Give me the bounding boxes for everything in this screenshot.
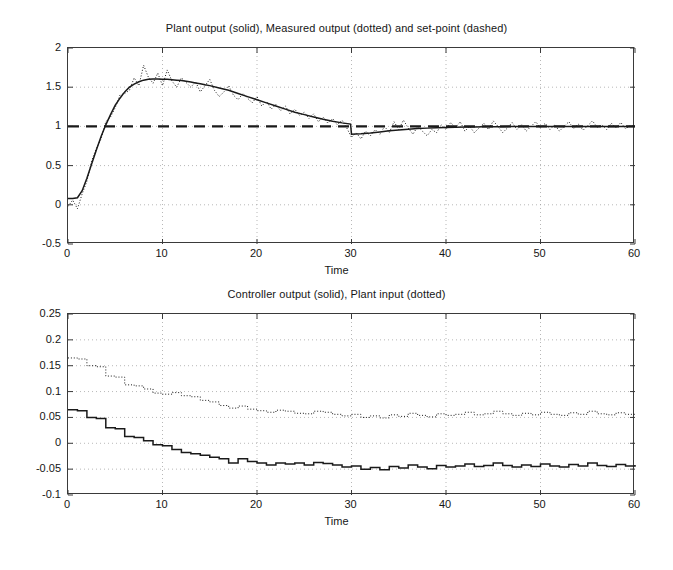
controller-output-title: Controller output (solid), Plant input (… <box>0 288 673 300</box>
xtick-label: 40 <box>439 247 451 259</box>
ytick-label: 1 <box>16 119 61 131</box>
ytick-label: 0.1 <box>6 385 61 397</box>
xtick-label: 30 <box>344 498 356 510</box>
xtick-label: 60 <box>628 498 640 510</box>
xtick-label: 40 <box>439 498 451 510</box>
matlab-figure-canvas: Plant output (solid), Measured output (d… <box>0 0 673 570</box>
ytick-label: 0.15 <box>6 359 61 371</box>
xtick-label: 50 <box>533 247 545 259</box>
controller-output-plot-area <box>68 314 635 495</box>
ytick-label: -0.5 <box>16 237 61 249</box>
plant-output-xlabel: Time <box>0 264 673 276</box>
controller-output-axes <box>67 313 634 494</box>
controller-output-xlabel: Time <box>0 515 673 527</box>
xtick-label: 0 <box>64 247 70 259</box>
plant-output-axes <box>67 47 634 243</box>
tick-marks <box>68 48 635 244</box>
xtick-label: 30 <box>344 247 356 259</box>
plant-output-title: Plant output (solid), Measured output (d… <box>0 22 673 34</box>
xtick-label: 10 <box>155 498 167 510</box>
ytick-label: 0 <box>16 198 61 210</box>
controller-output-panel: Controller output (solid), Plant input (… <box>0 288 673 538</box>
xtick-label: 10 <box>155 247 167 259</box>
xtick-label: 20 <box>250 498 262 510</box>
ytick-label: 0.2 <box>6 333 61 345</box>
xtick-label: 50 <box>533 498 545 510</box>
xtick-label: 0 <box>64 498 70 510</box>
series-dotted-step <box>68 358 635 418</box>
ytick-label: 2 <box>16 41 61 53</box>
grid-lines <box>68 48 635 244</box>
xtick-label: 20 <box>250 247 262 259</box>
ytick-label: 0.5 <box>16 159 61 171</box>
ytick-label: 0.05 <box>6 410 61 422</box>
series-dotted <box>68 65 635 208</box>
plant-output-plot-area <box>68 48 635 244</box>
tick-marks <box>68 314 635 495</box>
ytick-label: 0 <box>6 436 61 448</box>
grid-lines <box>68 314 635 495</box>
ytick-label: -0.05 <box>6 462 61 474</box>
ytick-label: 0.25 <box>6 307 61 319</box>
ytick-label: 1.5 <box>16 80 61 92</box>
xtick-label: 60 <box>628 247 640 259</box>
plant-output-panel: Plant output (solid), Measured output (d… <box>0 22 673 267</box>
ytick-label: -0.1 <box>6 488 61 500</box>
